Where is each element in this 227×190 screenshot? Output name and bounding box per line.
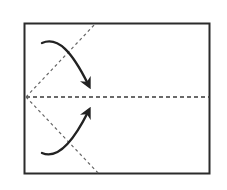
origami-diagram: [0, 0, 227, 190]
paper-outline: [25, 24, 210, 174]
